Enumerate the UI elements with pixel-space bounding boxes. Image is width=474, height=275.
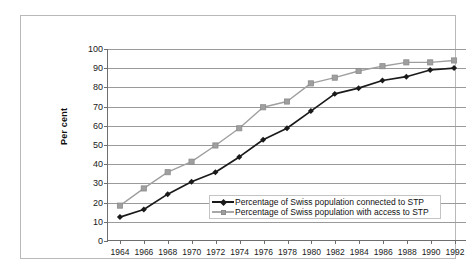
x-tick-mark — [359, 240, 360, 244]
x-tick-mark — [216, 240, 217, 244]
x-tick-mark — [335, 240, 336, 244]
data-point — [117, 214, 123, 220]
y-tick-mark — [104, 241, 108, 242]
y-tick-label: 100 — [88, 45, 103, 54]
x-tick-label: 1982 — [326, 248, 345, 257]
data-point — [284, 99, 289, 104]
x-tick-label: 1978 — [278, 248, 297, 257]
x-tick-mark — [264, 240, 265, 244]
legend-item-access: Percentage of Swiss population with acce… — [212, 207, 438, 217]
x-tick-mark — [120, 240, 121, 244]
y-tick-label: 50 — [93, 141, 103, 150]
data-point — [380, 64, 385, 69]
y-tick-label: 40 — [93, 160, 103, 169]
x-tick-mark — [288, 240, 289, 244]
data-point — [356, 85, 362, 91]
x-tick-label: 1970 — [182, 248, 201, 257]
x-tick-mark — [431, 240, 432, 244]
x-tick-label: 1986 — [374, 248, 393, 257]
x-tick-mark — [144, 240, 145, 244]
legend-marker-square-icon — [212, 207, 234, 217]
chart-page: Per cent 0102030405060708090100 19641966… — [0, 0, 474, 275]
x-tick-mark — [168, 240, 169, 244]
x-tick-mark — [383, 240, 384, 244]
data-point — [428, 60, 433, 65]
chart-legend: Percentage of Swiss population connected… — [209, 195, 441, 219]
y-tick-label: 60 — [93, 121, 103, 130]
x-tick-mark — [240, 240, 241, 244]
data-point — [213, 143, 218, 148]
x-tick-label: 1990 — [422, 248, 441, 257]
data-point — [189, 159, 194, 164]
data-point — [261, 105, 266, 110]
data-point — [237, 126, 242, 131]
x-tick-label: 1976 — [254, 248, 273, 257]
y-tick-label: 90 — [93, 64, 103, 73]
x-tick-label: 1964 — [110, 248, 129, 257]
x-tick-label: 1980 — [302, 248, 321, 257]
x-tick-mark — [455, 240, 456, 244]
x-tick-label: 1984 — [350, 248, 369, 257]
data-point — [117, 203, 122, 208]
y-tick-label: 80 — [93, 83, 103, 92]
figure-frame: Per cent 0102030405060708090100 19641966… — [20, 15, 456, 259]
data-point — [451, 65, 457, 71]
y-tick-label: 0 — [98, 237, 103, 246]
legend-marker-diamond-icon — [212, 197, 234, 207]
legend-item-connected: Percentage of Swiss population connected… — [212, 197, 438, 207]
x-tick-label: 1966 — [134, 248, 153, 257]
data-point — [308, 81, 313, 86]
series-line-access — [120, 60, 454, 205]
x-tick-mark — [407, 240, 408, 244]
x-tick-label: 1992 — [446, 248, 465, 257]
x-tick-mark — [192, 240, 193, 244]
x-tick-label: 1988 — [398, 248, 417, 257]
x-tick-label: 1974 — [230, 248, 249, 257]
y-tick-label: 30 — [93, 179, 103, 188]
data-point — [451, 58, 456, 63]
data-point — [403, 74, 409, 80]
x-tick-mark — [311, 240, 312, 244]
y-tick-label: 20 — [93, 198, 103, 207]
data-point — [141, 186, 146, 191]
x-tick-label: 1972 — [206, 248, 225, 257]
y-tick-label: 10 — [93, 217, 103, 226]
data-point — [189, 179, 195, 185]
data-point — [379, 78, 385, 84]
data-point — [404, 60, 409, 65]
data-point — [165, 170, 170, 175]
y-axis-title: Per cent — [59, 108, 69, 145]
data-point — [427, 67, 433, 73]
data-point — [332, 75, 337, 80]
x-tick-label: 1968 — [158, 248, 177, 257]
y-tick-label: 70 — [93, 102, 103, 111]
legend-label-connected: Percentage of Swiss population connected… — [234, 197, 424, 207]
legend-label-access: Percentage of Swiss population with acce… — [234, 207, 429, 217]
data-point — [356, 68, 361, 73]
